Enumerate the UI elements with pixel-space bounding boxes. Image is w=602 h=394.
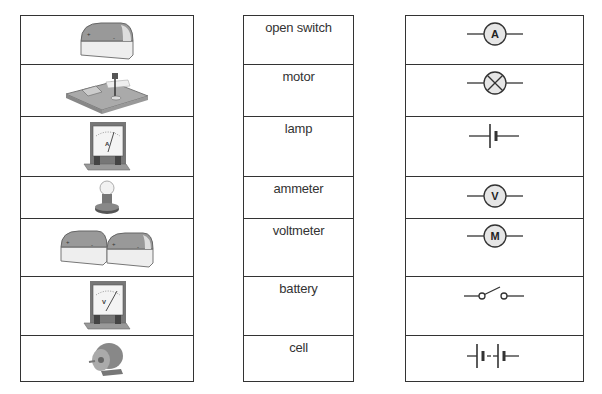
voltmeter-icon: V <box>82 279 132 333</box>
component-name: battery <box>279 281 317 296</box>
symbol-letter-v: V <box>491 190 499 202</box>
ammeter-symbol-icon: A <box>465 19 525 49</box>
symbol-letter-a: A <box>491 28 499 40</box>
component-name: cell <box>289 340 308 355</box>
ammeter-icon: A <box>82 120 132 174</box>
battery-icon: + - + - <box>57 225 157 271</box>
component-name: motor <box>282 69 314 84</box>
cell-icon: + - <box>77 19 137 61</box>
component-images-column: + - A <box>20 15 194 382</box>
open-switch-symbol-icon <box>462 278 528 308</box>
component-name: ammeter <box>274 181 324 196</box>
name-cell-4[interactable]: ammeter <box>244 177 353 219</box>
symbol-cell-1[interactable]: A <box>406 16 583 65</box>
motor-symbol-icon: M <box>465 221 525 251</box>
lamp-symbol-icon <box>465 68 525 98</box>
svg-text:-: - <box>113 35 115 41</box>
lamp-icon <box>92 179 122 217</box>
symbol-cell-2[interactable] <box>406 65 583 117</box>
name-cell-1[interactable]: open switch <box>244 16 353 65</box>
symbol-cell-6[interactable] <box>406 277 583 336</box>
svg-text:+: + <box>112 241 116 247</box>
symbol-cell-4[interactable]: V <box>406 177 583 219</box>
symbol-cell-5[interactable]: M <box>406 219 583 277</box>
image-cell-1[interactable]: + - <box>21 16 193 65</box>
svg-text:-: - <box>91 242 93 248</box>
name-cell-7[interactable]: cell <box>244 336 353 381</box>
symbol-letter-m: M <box>490 230 499 242</box>
svg-text:+: + <box>66 239 70 245</box>
name-cell-3[interactable]: lamp <box>244 117 353 177</box>
component-name: open switch <box>265 20 331 35</box>
name-cell-5[interactable]: voltmeter <box>244 219 353 277</box>
symbol-cell-3[interactable] <box>406 117 583 177</box>
image-cell-2[interactable] <box>21 65 193 117</box>
name-cell-2[interactable]: motor <box>244 65 353 117</box>
image-cell-4[interactable] <box>21 177 193 219</box>
image-cell-5[interactable]: + - + - <box>21 219 193 277</box>
voltmeter-symbol-icon: V <box>465 181 525 211</box>
svg-text:-: - <box>137 244 139 250</box>
component-name: voltmeter <box>273 223 325 238</box>
cell-symbol-icon <box>465 121 525 151</box>
battery-symbol-icon <box>465 341 525 371</box>
image-cell-7[interactable] <box>21 336 193 381</box>
name-cell-6[interactable]: battery <box>244 277 353 336</box>
component-name: lamp <box>285 121 312 136</box>
meter-label-v: V <box>102 299 106 305</box>
meter-label-a: A <box>105 141 110 147</box>
svg-text:+: + <box>87 31 91 37</box>
circuit-symbols-column: A V M <box>405 15 584 382</box>
image-cell-3[interactable]: A <box>21 117 193 177</box>
motor-icon <box>87 340 127 378</box>
symbol-cell-7[interactable] <box>406 336 583 381</box>
image-cell-6[interactable]: V <box>21 277 193 336</box>
switch-icon <box>62 68 152 114</box>
component-names-column: open switch motor lamp ammeter voltmeter… <box>243 15 354 382</box>
